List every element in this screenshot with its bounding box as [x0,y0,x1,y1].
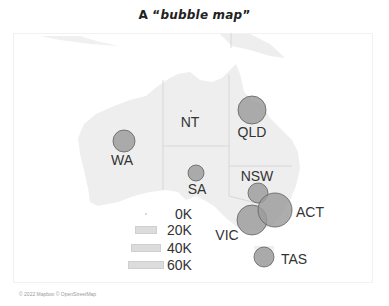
label-nsw: NSW [241,168,274,184]
label-act: ACT [296,204,324,220]
bubble-act[interactable] [258,193,292,227]
indonesia-islands [40,36,120,46]
legend-label-60k: 60K [167,257,192,273]
papua-landmass [220,34,285,58]
legend-label-0k: 0K [175,206,192,222]
legend-swatch-60k [128,261,164,269]
label-qld: QLD [238,124,267,140]
legend-label-40k: 40K [167,240,192,256]
map-canvas[interactable] [0,0,389,306]
map-attribution[interactable]: © 2022 Mapbox © OpenStreetMap [19,291,96,297]
legend-swatch-40k [131,244,161,252]
label-tas: TAS [281,251,307,267]
bubble-qld[interactable] [238,96,266,124]
legend-label-20k: 20K [167,222,192,238]
bubble-sa[interactable] [188,165,204,181]
label-vic: VIC [215,227,238,243]
bubble-nt[interactable] [190,110,192,112]
bubble-wa[interactable] [113,130,135,152]
bubble-tas[interactable] [254,247,274,267]
legend-swatch-20k [135,226,157,234]
legend-dot-0k [145,213,147,215]
label-wa: WA [111,152,133,168]
label-nt: NT [181,114,200,130]
label-sa: SA [188,181,207,197]
